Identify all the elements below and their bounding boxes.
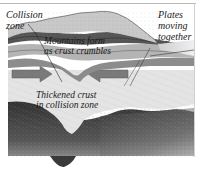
mountains-form-label-line2: as crust crumbles	[44, 46, 111, 56]
thickened-crust-label-line1: Thickened crust	[36, 90, 98, 100]
thickened-crust-label: Thickened crust in collision zone	[36, 90, 98, 110]
collision-zone-label: Collision zone	[6, 9, 43, 31]
plates-moving-label-line2: moving	[158, 20, 191, 31]
plates-moving-label: Plates moving together	[158, 9, 191, 42]
collision-diagram: Collision zone Plates moving together Mo…	[0, 0, 201, 174]
plates-moving-label-line1: Plates	[158, 9, 191, 20]
mountains-form-label: Mountains form as crust crumbles	[44, 36, 111, 56]
collision-zone-label-line1: Collision	[6, 9, 43, 20]
thickened-crust-label-line2: in collision zone	[36, 100, 98, 110]
mountains-form-label-line1: Mountains form	[44, 36, 111, 46]
collision-zone-label-line2: zone	[6, 20, 43, 31]
plates-moving-label-line3: together	[158, 31, 191, 42]
